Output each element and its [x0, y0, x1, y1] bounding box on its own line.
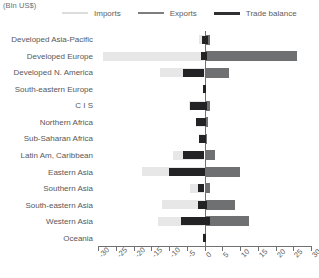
category-label: Western Asia — [46, 217, 93, 226]
chart-row: C I S — [98, 97, 311, 114]
legend-label-imports: Imports — [94, 9, 121, 18]
unit-caption: (Bln US$) — [3, 1, 36, 10]
chart-row: Sub-Saharan Africa — [98, 130, 311, 147]
bar-exports — [205, 51, 297, 61]
bar-imports — [103, 52, 204, 61]
x-axis-tick-label: 0 — [204, 250, 213, 259]
bar-trade-balance — [203, 234, 205, 242]
bar-trade-balance — [198, 184, 204, 192]
category-label: South-eastern Europe — [15, 84, 93, 93]
line-swatch-icon — [214, 12, 240, 15]
bar-exports — [205, 150, 216, 160]
category-label: Eastern Asia — [48, 167, 93, 176]
category-label: C I S — [75, 101, 93, 110]
bar-exports — [205, 183, 210, 193]
x-axis-tick-label: -30 — [97, 245, 111, 259]
bar-trade-balance — [198, 201, 207, 209]
legend-item-imports[interactable]: Imports — [62, 9, 121, 18]
chart-row: Latin Am, Caribbean — [98, 147, 311, 164]
bar-trade-balance — [169, 168, 205, 176]
x-axis-tick-label: -5 — [186, 248, 197, 259]
category-label: Developed Europe — [27, 51, 93, 60]
bar-trade-balance — [190, 102, 207, 110]
line-swatch-icon — [62, 12, 88, 14]
plot-area: Developed Asia-PacificDeveloped EuropeDe… — [98, 31, 311, 246]
chart-row: Southern Asia — [98, 180, 311, 197]
x-axis-tick-label: -20 — [133, 245, 147, 259]
legend-item-trade-balance[interactable]: Trade balance — [214, 9, 297, 18]
category-label: Oceania — [63, 233, 93, 242]
x-axis-tick-label: -25 — [115, 245, 129, 259]
bar-trade-balance — [183, 69, 204, 77]
category-label: Developed Asia-Pacific — [11, 35, 93, 44]
category-label: Sub-Saharan Africa — [24, 134, 93, 143]
bar-exports — [205, 200, 235, 210]
bar-trade-balance — [181, 217, 209, 225]
category-label: Developed N. America — [13, 68, 93, 77]
legend-label-exports: Exports — [170, 9, 197, 18]
legend-item-exports[interactable]: Exports — [138, 9, 197, 18]
chart-row: Developed Europe — [98, 48, 311, 65]
chart-row: Northern Africa — [98, 114, 311, 131]
bar-exports — [205, 216, 249, 226]
bar-trade-balance — [183, 151, 204, 159]
chart-row: Eastern Asia — [98, 163, 311, 180]
chart-row: Oceania — [98, 229, 311, 246]
bar-trade-balance — [196, 118, 206, 126]
chart-row: South-eastern Europe — [98, 81, 311, 98]
category-label: Latin Am, Caribbean — [21, 151, 94, 160]
x-axis: -30-25-20-15-10-5051015202530 — [98, 246, 311, 247]
chart-row: South-eastern Asia — [98, 196, 311, 213]
x-axis-tick-label: 5 — [221, 250, 230, 259]
bar-trade-balance — [201, 52, 207, 60]
category-label: South-eastern Asia — [25, 200, 93, 209]
chart-row: Developed N. America — [98, 64, 311, 81]
bar-trade-balance — [203, 85, 207, 93]
bar-exports — [205, 167, 241, 177]
bar-trade-balance — [199, 135, 206, 143]
category-label: Northern Africa — [40, 117, 93, 126]
legend-label-trade-balance: Trade balance — [246, 9, 297, 18]
x-axis-tick-label: 25 — [292, 247, 304, 259]
bar-trade-balance — [202, 36, 208, 44]
x-axis-tick-label: -15 — [150, 245, 164, 259]
trade-balance-chart: (Bln US$) Imports Exports Trade balance … — [0, 0, 319, 278]
x-axis-tick-label: -10 — [168, 245, 182, 259]
category-label: Southern Asia — [43, 184, 93, 193]
bar-exports — [205, 68, 230, 78]
chart-row: Western Asia — [98, 213, 311, 230]
chart-legend: Imports Exports Trade balance — [62, 7, 314, 19]
line-swatch-icon — [138, 12, 164, 14]
chart-row: Developed Asia-Pacific — [98, 31, 311, 48]
